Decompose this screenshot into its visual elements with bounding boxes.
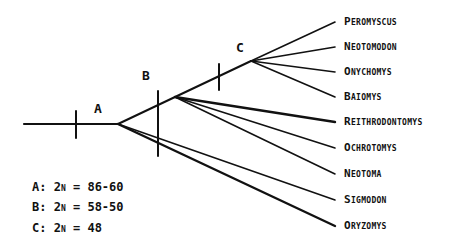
taxon-label: Sigmodon xyxy=(344,194,387,206)
taxon-label: Onychomys xyxy=(344,66,392,78)
legend-item-c: C: 2n = 48 xyxy=(32,221,102,235)
branch-neotomodon xyxy=(251,47,335,61)
branch-peromyscus xyxy=(251,22,335,61)
node-label-b: B xyxy=(142,68,150,83)
taxon-label: Neotomodon xyxy=(344,41,397,53)
taxon-label: Neotoma xyxy=(344,168,382,180)
branch-reithrodontomys xyxy=(175,97,335,122)
legend-item-b: B: 2n = 58-50 xyxy=(32,200,124,214)
branch-a-b xyxy=(118,97,175,124)
branch-oryzomys xyxy=(118,124,335,226)
node-label-c: C xyxy=(236,40,244,55)
legend-text: B: 2 xyxy=(32,200,61,214)
branch-b-c xyxy=(175,61,251,97)
branch-ochrotomys xyxy=(175,97,335,148)
legend-text: A: 2 xyxy=(32,180,61,194)
legend-text: = 86-60 xyxy=(66,180,124,194)
legend-item-a: A: 2n = 86-60 xyxy=(32,180,124,194)
legend-text: = 58-50 xyxy=(66,200,124,214)
taxon-label: Ochrotomys xyxy=(344,142,397,154)
branch-sigmodon xyxy=(118,124,335,200)
legend-text: C: 2 xyxy=(32,221,61,235)
node-label-a: A xyxy=(94,101,102,116)
legend-text: = 48 xyxy=(66,221,102,235)
taxon-label: Oryzomys xyxy=(344,220,387,232)
taxon-label: Reithrodontomys xyxy=(344,116,423,128)
taxon-label: Peromyscus xyxy=(344,16,397,28)
taxon-label: Baiomys xyxy=(344,91,382,103)
